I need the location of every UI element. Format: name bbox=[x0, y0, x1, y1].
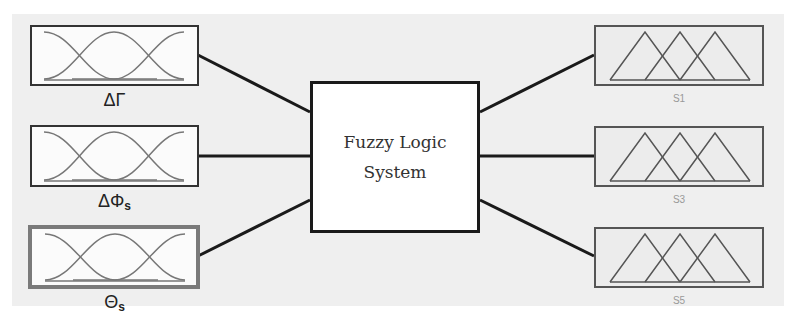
connector-input-1 bbox=[198, 55, 310, 112]
gaussian-mf-icon bbox=[32, 229, 196, 285]
gaussian-mf-icon bbox=[32, 127, 197, 185]
gaussian-mf-icon bbox=[32, 27, 197, 84]
triangular-mf-icon bbox=[596, 229, 762, 286]
output-label-s3: S3 bbox=[594, 194, 764, 205]
input-mf-box-delta-phi-s bbox=[30, 125, 199, 187]
center-label-line2: System bbox=[364, 157, 427, 187]
output-mf-box-s5 bbox=[594, 227, 764, 288]
fuzzy-logic-system-box: Fuzzy Logic System bbox=[310, 81, 480, 233]
input-label-delta-gamma: ΔΓ bbox=[30, 90, 199, 111]
output-mf-box-s1 bbox=[594, 25, 764, 86]
input-label-theta-s: Θs bbox=[30, 292, 199, 314]
connector-output-1 bbox=[480, 55, 594, 112]
triangular-mf-icon bbox=[596, 128, 762, 185]
input-mf-box-delta-gamma bbox=[30, 25, 199, 86]
output-label-s1: S1 bbox=[594, 93, 764, 104]
output-mf-box-s3 bbox=[594, 126, 764, 187]
center-label-line1: Fuzzy Logic bbox=[343, 127, 446, 157]
input-label-delta-phi-s: ΔΦs bbox=[30, 191, 199, 213]
output-label-s5: S5 bbox=[594, 295, 764, 306]
input-mf-box-theta-s bbox=[28, 225, 200, 289]
triangular-mf-icon bbox=[596, 27, 762, 84]
connector-output-3 bbox=[480, 200, 594, 256]
connector-input-3 bbox=[198, 200, 310, 256]
